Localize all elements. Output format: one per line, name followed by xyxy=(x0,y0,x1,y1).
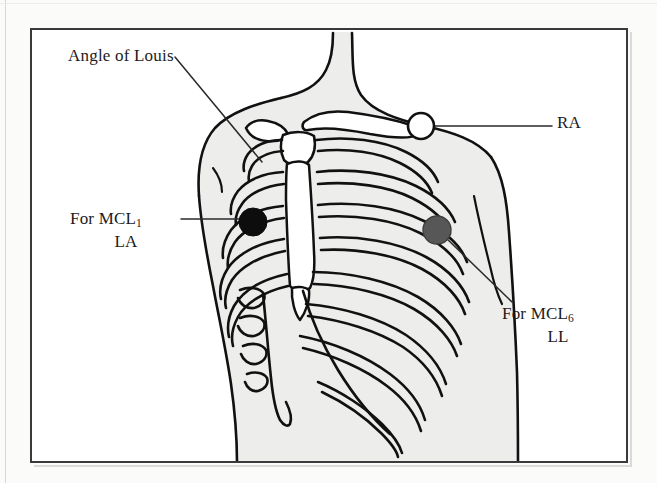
label-ra: RA xyxy=(557,112,581,133)
label-mcl6-lead: LL xyxy=(502,326,614,347)
label-mcl1: For MCL1 LA xyxy=(70,208,182,252)
label-mcl6: For MCL6 LL xyxy=(502,303,614,347)
electrode-la xyxy=(239,208,267,236)
label-mcl1-subscript: 1 xyxy=(136,217,142,229)
electrode-ra xyxy=(408,113,434,139)
label-mcl1-lead: LA xyxy=(70,231,182,252)
label-mcl1-prefix: For MCL xyxy=(70,209,136,228)
label-angle-of-louis: Angle of Louis xyxy=(68,45,174,66)
label-ra-text: RA xyxy=(557,113,581,132)
label-mcl6-subscript: 6 xyxy=(568,312,574,324)
sternum-body xyxy=(286,161,314,290)
electrode-ll xyxy=(423,216,451,244)
figure-page: Angle of Louis For MCL1 LA For MCL6 LL R… xyxy=(0,0,657,483)
label-angle-of-louis-text: Angle of Louis xyxy=(68,46,174,65)
label-mcl6-prefix: For MCL xyxy=(502,304,568,323)
